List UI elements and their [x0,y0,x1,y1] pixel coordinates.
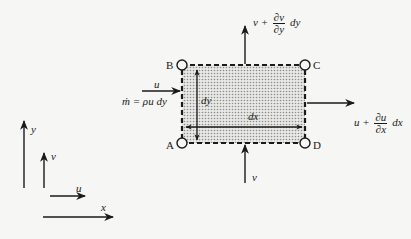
mass-flux-label: ṁ = ρu dy [122,96,167,107]
outflow-v-suffix: dy [290,16,300,28]
v-axis-label: v [51,151,56,162]
partial-u-denominator: ∂x [376,124,386,135]
outflow-u-label: u + ∂u ∂x dx [354,112,403,135]
outflow-u-prefix: u + [354,116,370,128]
corner-d-circle [300,138,310,148]
corner-c-circle [300,60,310,70]
corner-a-circle [177,138,187,148]
inflow-u-label: u [154,79,160,90]
corner-b-circle [177,60,187,70]
partial-u-fraction: ∂u ∂x [374,112,387,135]
partial-v-denominator: ∂y [274,24,284,35]
outflow-v-prefix: v + [253,16,268,28]
outflow-u-suffix: dx [392,116,402,128]
corner-label-d: D [313,140,321,151]
dx-label: dx [248,111,258,122]
u-axis-label: u [76,183,82,194]
corner-label-b: B [166,60,173,71]
x-axis-label: x [101,202,106,213]
partial-v-fraction: ∂v ∂y [273,12,285,35]
inflow-v-label: v [252,172,257,183]
dy-label: dy [201,95,211,106]
diagram-canvas [0,0,411,239]
y-axis-label: y [31,124,36,135]
outflow-v-label: v + ∂v ∂y dy [253,12,300,35]
corner-label-a: A [166,140,174,151]
corner-label-c: C [313,60,320,71]
